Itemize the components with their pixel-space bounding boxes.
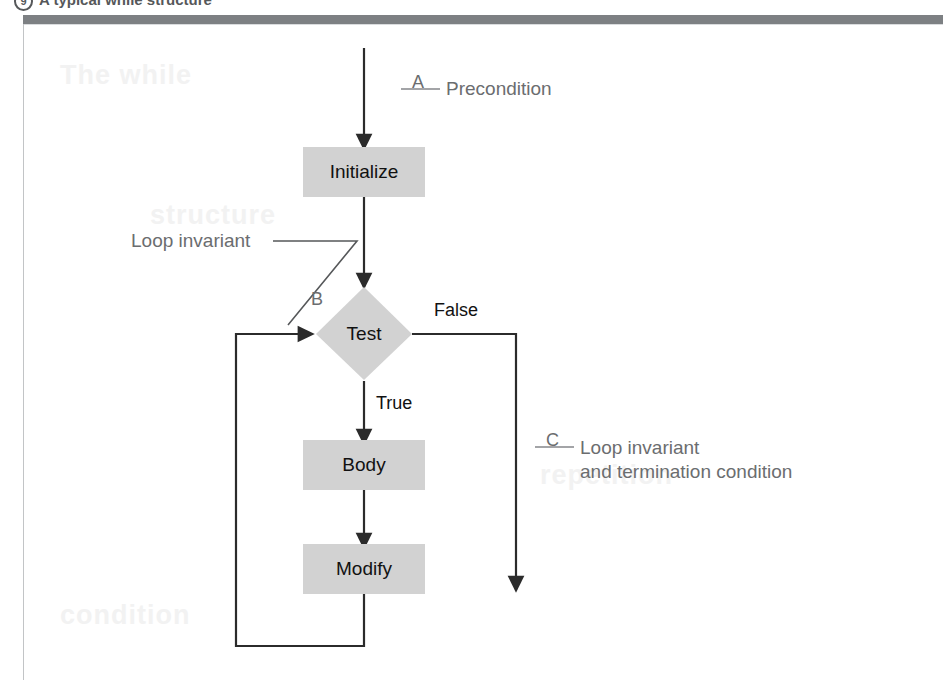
callout-a-text: Precondition	[446, 77, 552, 101]
node-initialize[interactable]: Initialize	[303, 147, 425, 197]
node-body-label: Body	[342, 454, 385, 476]
edge-label-false: False	[434, 300, 478, 321]
flowchart-connectors	[0, 0, 943, 680]
edge-modify-loop-back	[236, 334, 364, 646]
callout-b-letter: B	[311, 289, 323, 310]
node-modify[interactable]: Modify	[303, 544, 425, 594]
node-test-label[interactable]: Test	[316, 323, 412, 345]
callout-c-text-line2: and termination condition	[580, 461, 792, 482]
node-initialize-label: Initialize	[330, 161, 399, 183]
callout-c-text-line1: Loop invariant	[580, 437, 699, 458]
node-modify-label: Modify	[336, 558, 392, 580]
callout-c-letter: C	[546, 430, 559, 451]
edge-test-false	[412, 334, 516, 584]
figure-page: The while structure repetition condition…	[0, 0, 943, 680]
callout-loop-invariant-text: Loop invariant	[131, 230, 250, 252]
node-body[interactable]: Body	[303, 440, 425, 490]
edge-label-true: True	[376, 393, 412, 414]
callout-c-text: Loop invariantand termination condition	[580, 436, 792, 484]
callout-a-letter: A	[412, 72, 424, 93]
